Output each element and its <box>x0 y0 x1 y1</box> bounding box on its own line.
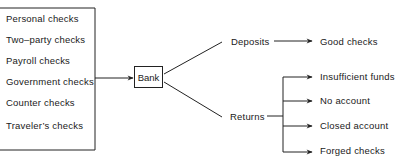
bank-node: Bank <box>134 66 163 88</box>
line-to-deposits <box>164 42 222 74</box>
source-personal-checks: Personal checks <box>6 13 79 24</box>
outcome-no-account: No account <box>320 95 370 106</box>
source-two-party-checks: Two–party checks <box>6 34 85 45</box>
outcome-forged-checks: Forged checks <box>320 145 385 156</box>
outcome-insufficient-funds: Insufficient funds <box>320 71 395 82</box>
source-travelers-checks: Traveler’s checks <box>6 120 83 131</box>
deposits-label: Deposits <box>231 36 270 47</box>
source-government-checks: Government checks <box>6 76 94 87</box>
outcome-closed-account: Closed account <box>320 120 388 131</box>
good-checks-label: Good checks <box>320 36 378 47</box>
source-counter-checks: Counter checks <box>6 97 75 108</box>
returns-label: Returns <box>230 111 265 122</box>
line-to-returns <box>164 82 222 117</box>
source-payroll-checks: Payroll checks <box>6 55 70 66</box>
